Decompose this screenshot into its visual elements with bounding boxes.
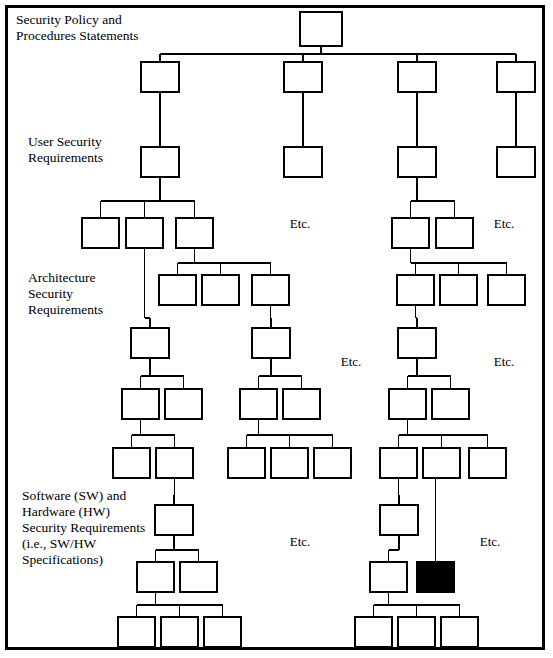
tree-node[interactable]	[398, 62, 436, 92]
tree-node[interactable]	[131, 328, 169, 358]
tree-node[interactable]	[497, 62, 535, 92]
tree-node[interactable]	[113, 448, 150, 478]
tree-node[interactable]	[380, 448, 417, 478]
tree-node[interactable]	[284, 62, 322, 92]
tree-node-highlighted[interactable]	[417, 562, 454, 592]
tree-node[interactable]	[488, 275, 525, 305]
etc-3-label: Etc.	[335, 354, 367, 370]
tree-node[interactable]	[355, 617, 392, 647]
tree-node[interactable]	[252, 275, 289, 305]
tree-node[interactable]	[155, 505, 193, 535]
tree-node[interactable]	[370, 562, 407, 592]
tree-node[interactable]	[126, 218, 163, 248]
tree-node[interactable]	[497, 147, 535, 177]
tree-node[interactable]	[159, 275, 196, 305]
tree-node[interactable]	[118, 617, 155, 647]
tree-node[interactable]	[156, 448, 193, 478]
tree-node[interactable]	[397, 275, 434, 305]
tree-node[interactable]	[82, 218, 119, 248]
tree-node[interactable]	[228, 448, 265, 478]
tree-node[interactable]	[141, 147, 179, 177]
tree-node[interactable]	[469, 448, 506, 478]
tree-node[interactable]	[161, 617, 198, 647]
tree-node[interactable]	[122, 389, 159, 419]
tree-node[interactable]	[141, 62, 179, 92]
tree-node[interactable]	[436, 218, 473, 248]
tree-node[interactable]	[432, 389, 469, 419]
tier-user: User Security Requirements	[28, 134, 103, 166]
etc-1-label: Etc.	[284, 216, 316, 232]
tree-node[interactable]	[176, 218, 213, 248]
tree-node[interactable]	[389, 389, 426, 419]
tree-node[interactable]	[204, 617, 241, 647]
etc-2-label: Etc.	[488, 216, 520, 232]
tier-architecture: Architecture Security Requirements	[28, 270, 103, 318]
tree-node[interactable]	[398, 617, 435, 647]
node-layer	[82, 12, 535, 647]
tree-node[interactable]	[271, 448, 308, 478]
etc-6-label: Etc.	[474, 534, 506, 550]
tree-node[interactable]	[398, 147, 436, 177]
tree-node[interactable]	[441, 617, 478, 647]
tree-node[interactable]	[300, 12, 342, 46]
tree-node[interactable]	[284, 147, 322, 177]
figure-page: Security Policy and Procedures Statement…	[0, 0, 553, 658]
tree-node[interactable]	[240, 389, 277, 419]
tree-node[interactable]	[180, 562, 217, 592]
tree-node[interactable]	[440, 275, 477, 305]
etc-5-label: Etc.	[284, 534, 316, 550]
tree-node[interactable]	[314, 448, 351, 478]
tier-policy: Security Policy and Procedures Statement…	[16, 12, 139, 44]
tree-node[interactable]	[398, 328, 436, 358]
tier-software: Software (SW) and Hardware (HW) Security…	[22, 488, 145, 568]
tree-node[interactable]	[380, 505, 418, 535]
etc-4-label: Etc.	[488, 354, 520, 370]
tree-node[interactable]	[252, 328, 290, 358]
tree-node[interactable]	[392, 218, 429, 248]
tree-node[interactable]	[165, 389, 202, 419]
tree-node[interactable]	[423, 448, 460, 478]
tree-node[interactable]	[283, 389, 320, 419]
tree-node[interactable]	[202, 275, 239, 305]
